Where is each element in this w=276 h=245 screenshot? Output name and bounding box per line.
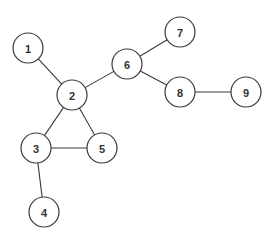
node-9: 9 <box>231 77 261 107</box>
node-label: 3 <box>33 143 39 155</box>
nodes-layer: 123456789 <box>13 17 261 227</box>
node-2: 2 <box>57 80 87 110</box>
edge-2-6 <box>85 71 114 87</box>
node-label: 4 <box>41 207 48 219</box>
node-5: 5 <box>87 133 117 163</box>
edge-2-5 <box>79 108 94 135</box>
node-label: 8 <box>177 87 183 99</box>
edge-6-8 <box>140 71 166 85</box>
edge-1-2 <box>38 59 61 84</box>
edge-2-3 <box>44 107 63 135</box>
node-label: 9 <box>243 87 249 99</box>
edge-3-4 <box>38 163 42 197</box>
node-label: 7 <box>177 27 183 39</box>
node-label: 5 <box>99 143 105 155</box>
node-3: 3 <box>21 133 51 163</box>
edge-6-7 <box>140 40 167 56</box>
node-label: 6 <box>124 59 130 71</box>
node-1: 1 <box>13 33 43 63</box>
node-6: 6 <box>112 49 142 79</box>
graph-diagram: 123456789 <box>0 0 276 245</box>
node-label: 1 <box>25 43 31 55</box>
node-7: 7 <box>165 17 195 47</box>
node-4: 4 <box>29 197 59 227</box>
node-8: 8 <box>165 77 195 107</box>
node-label: 2 <box>69 90 75 102</box>
